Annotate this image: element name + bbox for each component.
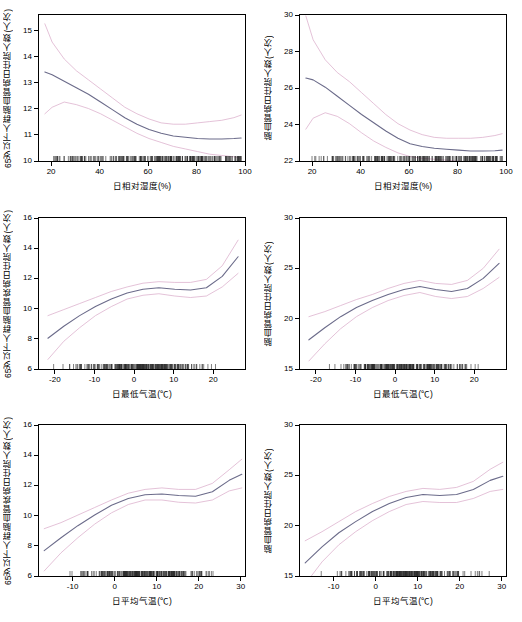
x-tick	[360, 162, 361, 166]
y-tick	[295, 51, 299, 52]
fitted-curve	[44, 474, 242, 550]
x-tick-label: 40	[345, 167, 377, 176]
y-tick-label: 25	[269, 263, 293, 272]
y-tick-label: 20	[269, 521, 293, 530]
y-tick	[295, 218, 299, 219]
y-tick-label: 10	[8, 304, 32, 313]
y-tick	[295, 318, 299, 319]
x-tick	[245, 162, 246, 166]
plot-area	[38, 217, 246, 370]
y-tick-label: 30	[269, 213, 293, 222]
x-tick	[72, 577, 73, 581]
y-tick-label: 12	[8, 480, 32, 489]
x-tick	[173, 370, 174, 374]
x-tick-label: 100	[229, 167, 261, 176]
plot-area	[38, 424, 246, 577]
y-tick-label: 12	[8, 273, 32, 282]
x-tick-label: 10	[158, 375, 190, 384]
x-tick	[395, 370, 396, 374]
x-tick	[156, 577, 157, 581]
y-tick-label: 25	[269, 470, 293, 479]
fitted-curve	[45, 72, 241, 139]
y-tick	[295, 525, 299, 526]
x-tick	[417, 577, 418, 581]
x-tick	[213, 370, 214, 374]
lower-confidence-line	[45, 102, 241, 158]
x-tick	[434, 370, 435, 374]
upper-confidence-line	[48, 240, 238, 316]
y-tick-label: 16	[8, 420, 32, 429]
x-tick	[94, 370, 95, 374]
y-tick-label: 14	[8, 243, 32, 252]
x-tick-label: 60	[132, 167, 164, 176]
y-tick	[34, 338, 38, 339]
y-tick	[34, 134, 38, 135]
x-tick	[51, 162, 52, 166]
y-tick	[295, 576, 299, 577]
rug-plot	[329, 364, 478, 370]
x-tick	[501, 577, 502, 581]
x-tick-label: 80	[442, 167, 474, 176]
fitted-curve	[48, 257, 238, 339]
chart-panel-6: 脑血管病日住院人数(人次)-10010203030252015日平均气温(℃)	[261, 414, 522, 622]
y-axis-label: 65岁以下人群脑血管疾病日住院人数(人次)	[2, 424, 14, 577]
x-tick-label: 10	[141, 582, 173, 591]
upper-confidence-line	[306, 16, 502, 138]
x-tick-label: 20	[35, 167, 67, 176]
y-axis-label: 脑血管病日住院人数(人次)	[263, 424, 275, 577]
y-tick-label: 24	[269, 120, 293, 129]
x-tick	[409, 162, 410, 166]
upper-confidence-line	[45, 24, 241, 124]
lower-confidence-line	[305, 489, 503, 577]
y-tick	[34, 515, 38, 516]
x-tick-label: 60	[393, 167, 425, 176]
x-tick-label: 20	[197, 375, 229, 384]
x-tick-label: -20	[300, 375, 332, 384]
x-tick-label: 30	[486, 582, 518, 591]
upper-confidence-line	[44, 459, 242, 528]
y-tick-label: 10	[8, 156, 32, 165]
x-tick-label: 0	[99, 582, 131, 591]
x-tick	[196, 162, 197, 166]
y-tick	[34, 425, 38, 426]
plot-area	[299, 14, 507, 162]
y-tick	[295, 425, 299, 426]
y-tick	[295, 268, 299, 269]
x-tick-label: 0	[379, 375, 411, 384]
x-tick-label: 20	[183, 582, 215, 591]
y-tick-label: 16	[8, 213, 32, 222]
y-tick	[295, 15, 299, 16]
chart-panel-2: 脑血管病日住院人数(人次)204060801003028262422日相对湿度(…	[261, 0, 522, 207]
x-tick-label: 10	[402, 582, 434, 591]
y-tick-label: 28	[269, 47, 293, 56]
x-tick-label: -10	[339, 375, 371, 384]
chart-panel-5: 65岁以下人群脑血管疾病日住院人数(人次)-100102030161412108…	[0, 414, 261, 622]
upper-confidence-line	[305, 462, 503, 541]
x-tick	[355, 370, 356, 374]
y-tick	[295, 161, 299, 162]
x-tick	[312, 162, 313, 166]
y-tick	[34, 545, 38, 546]
x-tick-label: -10	[318, 582, 350, 591]
y-tick-label: 14	[8, 450, 32, 459]
x-tick-label: 100	[490, 167, 522, 176]
figure-panel-grid: 65岁以下人群脑血管病日住院人数(人次)20406080100151413121…	[0, 0, 522, 622]
x-axis-label: 日相对湿度(%)	[38, 179, 246, 191]
x-tick-label: -10	[78, 375, 110, 384]
x-tick-label: 80	[181, 167, 213, 176]
x-tick	[54, 370, 55, 374]
y-tick	[34, 161, 38, 162]
y-tick-label: 14	[8, 52, 32, 61]
y-tick-label: 8	[8, 541, 32, 550]
y-tick-label: 10	[8, 511, 32, 520]
y-tick	[34, 108, 38, 109]
y-tick-label: 6	[8, 571, 32, 580]
y-tick-label: 13	[8, 78, 32, 87]
y-tick	[34, 218, 38, 219]
x-tick-label: -20	[39, 375, 71, 384]
y-tick-label: 15	[269, 364, 293, 373]
x-tick	[315, 370, 316, 374]
fitted-curve	[306, 78, 502, 151]
y-tick-label: 30	[269, 10, 293, 19]
rug-plot	[54, 364, 216, 370]
